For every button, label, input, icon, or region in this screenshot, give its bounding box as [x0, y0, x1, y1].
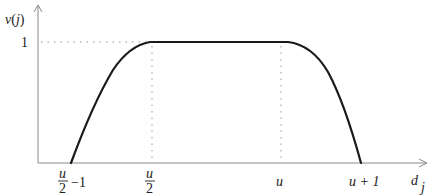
x-tick-u-half-minus-1: u 2 −1	[58, 166, 86, 196]
svg-text:2: 2	[146, 181, 153, 196]
y-tick-1: 1	[21, 35, 28, 50]
svg-text:−1: −1	[71, 175, 86, 190]
x-tick-u: u	[276, 174, 283, 189]
x-tick-u-plus-1: u + 1	[349, 174, 379, 189]
svg-text:u: u	[59, 166, 66, 181]
trapezoid-membership-diagram: v(j) 1 u 2 −1 u 2 u u + 1 d j	[0, 0, 438, 196]
svg-text:j: j	[419, 180, 425, 195]
membership-curve	[71, 42, 361, 163]
y-axis-label: v(j)	[5, 12, 25, 28]
svg-text:2: 2	[59, 181, 66, 196]
x-axis-label: d j	[411, 173, 425, 195]
x-tick-u-half: u 2	[145, 166, 155, 196]
svg-text:u: u	[146, 166, 153, 181]
svg-text:d: d	[411, 173, 419, 188]
